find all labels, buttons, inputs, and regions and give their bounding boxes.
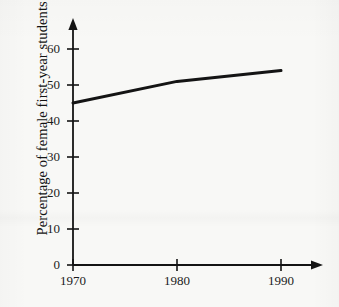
- x-tick-label-1970: 1970: [48, 274, 98, 287]
- y-tick-label-30: 30: [38, 150, 60, 163]
- x-axis-arrowhead: [311, 260, 323, 269]
- x-tick-label-1990: 1990: [256, 274, 306, 287]
- y-axis-arrowhead: [68, 18, 77, 30]
- x-tick-label-1980: 1980: [152, 274, 202, 287]
- y-tick-label-50: 50: [38, 78, 60, 91]
- y-tick-label-20: 20: [38, 186, 60, 199]
- y-tick-label-10: 10: [38, 222, 60, 235]
- y-axis-title: Percentage of female first-year students: [34, 26, 51, 236]
- y-tick-label-40: 40: [38, 114, 60, 127]
- chart-figure: Percentage of female first-year students…: [0, 0, 339, 307]
- y-tick-label-60: 60: [38, 42, 60, 55]
- data-line-series-1: [73, 71, 281, 103]
- y-tick-label-0: 0: [38, 258, 60, 271]
